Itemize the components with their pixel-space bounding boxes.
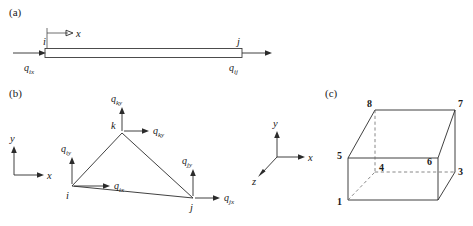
cube-node-8: 8 — [367, 98, 372, 109]
panel-a-node-i-label: i — [43, 36, 46, 47]
cube-node-6: 6 — [427, 156, 432, 167]
panel-a-node-j-label: j — [235, 36, 240, 47]
triad-z-label: z — [251, 176, 256, 187]
node-i-flux-y-label: qiy — [61, 143, 72, 157]
panel-a-flux-i-label: qix — [24, 62, 35, 76]
bar-element-body — [45, 49, 242, 58]
panel-c: (c) 8 7 4 3 5 6 1 — [325, 87, 463, 207]
panel-c-label: (c) — [325, 87, 338, 100]
cube-node-4: 4 — [379, 162, 384, 173]
cube-node-3: 3 — [458, 166, 463, 177]
node-j-flux-x-label: qjx — [224, 192, 235, 206]
node-j-flux-y-label: qjy — [182, 155, 193, 169]
panel-b-global-axes: y x — [9, 133, 52, 181]
panel-b-x-axis-label: x — [46, 170, 52, 181]
cube-node-1: 1 — [337, 196, 342, 207]
finite-element-figure: (a) x i j qix qij (b) — [0, 0, 473, 226]
hexahedron-element — [348, 110, 455, 200]
node-k-label: k — [111, 120, 116, 131]
panel-a-axis-x: x — [47, 28, 81, 49]
node-i-label: i — [66, 190, 69, 201]
panel-b-y-axis-label: y — [9, 133, 15, 144]
panel-b-label: (b) — [9, 87, 22, 100]
node-k-flux-y-label: qky — [111, 93, 123, 107]
cube-node-7: 7 — [458, 98, 463, 109]
panel-a-x-label: x — [75, 28, 81, 39]
panel-b: (b) y x qky qky k qiy — [9, 87, 235, 213]
panel-a-flux-j-arrow — [242, 50, 272, 56]
node-k-fluxes: qky qky k — [111, 93, 165, 139]
panel-a-flux-i-arrow — [13, 50, 46, 56]
coordinate-triad-3d: y x z — [251, 118, 313, 187]
node-j-fluxes: qjy qjx j — [182, 155, 235, 213]
triangle-element — [72, 133, 193, 198]
cube-node-5: 5 — [337, 150, 342, 161]
panel-a-flux-j-label: qij — [229, 62, 238, 76]
node-j-label: j — [188, 202, 193, 213]
node-k-flux-x-label: qky — [153, 125, 165, 139]
node-i-fluxes: qiy qix i — [61, 143, 125, 201]
panel-a: (a) x i j qix qij — [9, 6, 272, 76]
node-i-flux-x-label: qix — [114, 180, 125, 194]
triad-y-label: y — [272, 118, 278, 129]
panel-a-label: (a) — [9, 6, 22, 19]
triad-x-label: x — [307, 152, 313, 163]
